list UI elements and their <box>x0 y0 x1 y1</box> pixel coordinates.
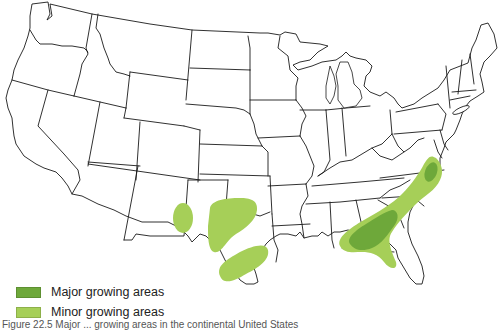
us-outline <box>6 2 497 284</box>
state-borders <box>6 2 497 284</box>
minor-area-new-mexico <box>173 203 193 233</box>
legend-label-minor: Minor growing areas <box>51 305 164 319</box>
major-swatch <box>16 287 41 298</box>
figure-caption: Figure 22.5 Major ... growing areas in t… <box>2 319 298 330</box>
legend-label-major: Major growing areas <box>51 285 164 299</box>
legend-item-major: Major growing areas <box>16 282 164 302</box>
minor-swatch <box>16 307 41 318</box>
legend: Major growing areas Minor growing areas <box>16 282 164 322</box>
